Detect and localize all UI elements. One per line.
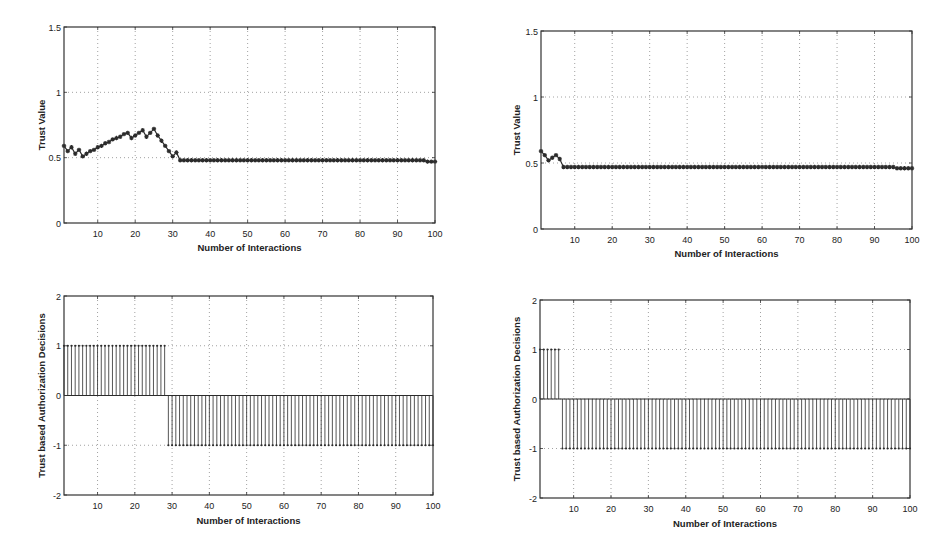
x-tick-label: 90	[870, 235, 880, 245]
y-tick-label: 0.5	[48, 153, 61, 163]
y-tick-label: 0	[56, 391, 61, 401]
x-tick-label: 20	[607, 235, 617, 245]
y-tick-label: 0	[56, 219, 61, 229]
x-tick-label: 100	[425, 501, 440, 511]
y-tick-label: -2	[529, 494, 537, 504]
authorization-decisions-chart-right: 102030405060708090100-2-1012Number of In…	[511, 296, 918, 530]
x-tick-label: 30	[643, 504, 653, 514]
x-tick-label: 80	[830, 504, 840, 514]
axes-frame	[64, 27, 435, 223]
x-axis-label: Number of Interactions	[675, 248, 779, 259]
x-tick-label: 50	[720, 235, 730, 245]
x-axis-label: Number of Interactions	[673, 518, 777, 529]
x-axis-ticks: 102030405060708090100	[570, 31, 920, 245]
x-tick-label: 10	[93, 501, 103, 511]
x-tick-label: 20	[606, 504, 616, 514]
authorization-decisions-chart-left: 102030405060708090100-2-1012Number of In…	[36, 292, 441, 527]
y-axis-label: Trust Value	[511, 105, 522, 156]
x-tick-label: 60	[279, 501, 289, 511]
x-tick-label: 80	[355, 229, 365, 239]
x-tick-label: 50	[242, 501, 252, 511]
grid	[64, 27, 435, 223]
y-axis-ticks: 00.511.5	[48, 23, 435, 229]
y-tick-label: -1	[529, 444, 537, 454]
x-tick-label: 40	[681, 504, 691, 514]
x-tick-label: 70	[318, 229, 328, 239]
x-tick-label: 40	[205, 229, 215, 239]
y-axis-ticks: 00.511.5	[525, 27, 912, 235]
trust-value-chart-right: 10203040506070809010000.511.5Number of I…	[511, 27, 920, 260]
y-tick-label: 2	[56, 292, 61, 302]
y-tick-label: 1	[56, 88, 61, 98]
x-tick-label: 100	[902, 504, 917, 514]
x-tick-label: 30	[645, 235, 655, 245]
x-tick-label: 70	[793, 504, 803, 514]
x-tick-label: 90	[393, 229, 403, 239]
x-tick-label: 60	[280, 229, 290, 239]
x-tick-label: 10	[93, 229, 103, 239]
trust-series	[539, 149, 914, 171]
y-tick-label: 0	[533, 225, 538, 235]
x-tick-label: 90	[868, 504, 878, 514]
x-axis-ticks: 102030405060708090100	[93, 27, 443, 239]
y-axis-label: Trust Value	[36, 100, 47, 151]
x-tick-label: 80	[353, 501, 363, 511]
x-tick-label: 30	[168, 229, 178, 239]
x-tick-label: 80	[832, 235, 842, 245]
y-tick-label: 0	[532, 395, 537, 405]
trust-series	[62, 127, 437, 164]
x-tick-label: 30	[167, 501, 177, 511]
stem-series	[539, 348, 911, 449]
x-tick-label: 70	[316, 501, 326, 511]
figure: 10203040506070809010000.511.5Number of I…	[0, 0, 947, 557]
y-tick-label: 1.5	[525, 27, 538, 37]
x-tick-label: 20	[130, 501, 140, 511]
y-tick-label: 1	[532, 345, 537, 355]
y-axis-label: Trust based Authorization Decisions	[36, 313, 47, 477]
x-tick-label: 40	[682, 235, 692, 245]
y-tick-label: -2	[53, 491, 61, 501]
x-tick-label: 20	[130, 229, 140, 239]
x-tick-label: 50	[718, 504, 728, 514]
x-tick-label: 60	[757, 235, 767, 245]
stem-series	[63, 345, 434, 447]
x-tick-label: 100	[427, 229, 442, 239]
grid	[541, 31, 912, 229]
y-tick-label: 1	[56, 341, 61, 351]
x-tick-label: 10	[570, 235, 580, 245]
x-tick-label: 40	[204, 501, 214, 511]
y-tick-label: 0.5	[525, 159, 538, 169]
trust-value-chart-left: 10203040506070809010000.511.5Number of I…	[36, 23, 443, 254]
x-tick-label: 100	[904, 235, 919, 245]
x-tick-label: 50	[243, 229, 253, 239]
x-tick-label: 70	[795, 235, 805, 245]
y-tick-label: 2	[532, 296, 537, 306]
x-tick-label: 90	[391, 501, 401, 511]
axes-frame	[541, 31, 912, 229]
x-tick-label: 10	[569, 504, 579, 514]
y-tick-label: -1	[53, 441, 61, 451]
x-tick-label: 60	[755, 504, 765, 514]
x-axis-label: Number of Interactions	[197, 515, 301, 526]
y-axis-label: Trust based Authorization Decisions	[511, 317, 522, 481]
y-tick-label: 1	[533, 93, 538, 103]
x-axis-label: Number of Interactions	[198, 242, 302, 253]
y-tick-label: 1.5	[48, 23, 61, 33]
